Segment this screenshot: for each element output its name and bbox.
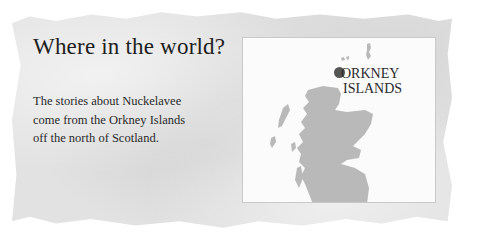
description-text: The stories about Nuckelavee come from t… bbox=[33, 92, 233, 148]
map-label: ORKNEY ISLANDS bbox=[341, 66, 402, 96]
page-title: Where in the world? bbox=[33, 34, 225, 60]
scotland-map: ORKNEY ISLANDS bbox=[242, 37, 436, 203]
description-line: come from the Orkney Islands bbox=[33, 111, 233, 130]
description-line: off the north of Scotland. bbox=[33, 129, 233, 148]
map-label-line: ISLANDS bbox=[341, 81, 402, 96]
map-label-line: ORKNEY bbox=[341, 66, 402, 81]
description-line: The stories about Nuckelavee bbox=[33, 92, 233, 111]
scotland-landmass-icon bbox=[243, 38, 436, 203]
